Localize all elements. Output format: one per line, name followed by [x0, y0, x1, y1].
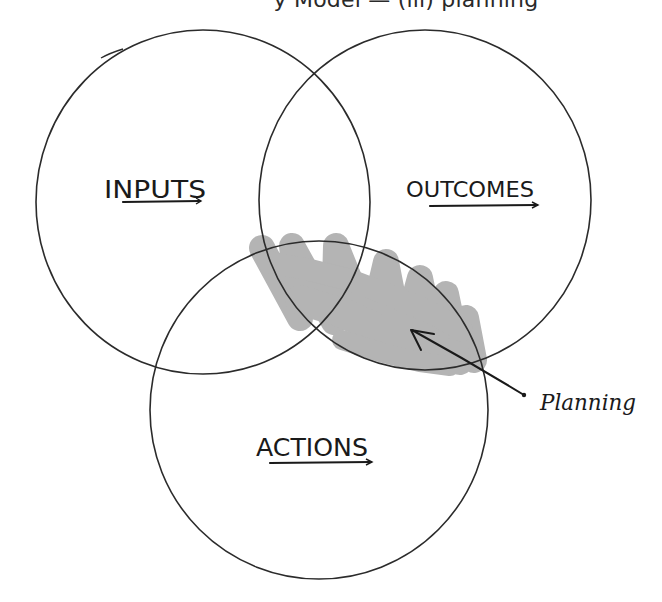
outcomes-label: OUTCOMES [406, 177, 534, 202]
outcomes-underline-arrow [430, 205, 537, 206]
figure-title: y Model — (iii) planning [0, 0, 662, 12]
figure-title-text: y Model — (iii) planning [124, 0, 539, 12]
label-actions: ACTIONS [256, 434, 372, 465]
actions-underline-arrow [270, 462, 371, 463]
inputs-label: INPUTS [104, 176, 206, 204]
arrow-tail-dot [522, 393, 526, 397]
actions-label: ACTIONS [256, 434, 368, 462]
planning-label: Planning [539, 390, 636, 415]
venn-diagram: INPUTS OUTCOMES ACTIONS Planning [0, 0, 662, 602]
label-outcomes: OUTCOMES [406, 177, 538, 208]
label-inputs: INPUTS [104, 176, 206, 204]
inputs-underline-arrow [123, 201, 200, 202]
venn-diagram-figure: y Model — (iii) planning INPUTS OUTCOMES [0, 0, 662, 602]
